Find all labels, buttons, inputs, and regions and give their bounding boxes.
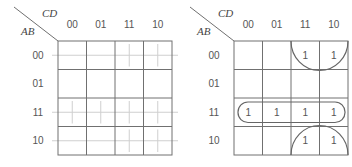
row-label: 11 — [209, 107, 220, 118]
col-label: 00 — [67, 19, 79, 30]
row-variable-label: AB — [20, 25, 35, 37]
cell-value: 1 — [331, 135, 337, 146]
cell-value: 1 — [302, 107, 308, 118]
col-variable-label: CD — [42, 7, 57, 19]
row-label: 00 — [208, 50, 220, 61]
cell-value: 1 — [245, 107, 251, 118]
row-label: 10 — [208, 135, 220, 146]
cell-value: 1 — [331, 107, 337, 118]
col-label: 00 — [243, 19, 255, 30]
karnaugh-maps-diagram: CDAB0001111000011110CDAB0001111000011110… — [0, 0, 352, 167]
cell-value: 1 — [331, 50, 337, 61]
col-label: 10 — [152, 19, 164, 30]
col-variable-label: CD — [218, 7, 233, 19]
row-label: 11 — [33, 107, 44, 118]
cell-value: 1 — [302, 135, 308, 146]
kmap-right: CDAB000111100001111011111111 — [190, 7, 348, 155]
row-label: 10 — [32, 135, 44, 146]
kmap-left: CDAB0001111000011110 — [14, 7, 178, 155]
col-label: 11 — [124, 19, 135, 30]
row-label: 00 — [32, 50, 44, 61]
col-label: 11 — [300, 19, 311, 30]
col-label: 01 — [271, 19, 283, 30]
col-label: 10 — [328, 19, 340, 30]
row-variable-label: AB — [196, 25, 211, 37]
cell-value: 1 — [274, 107, 280, 118]
col-label: 01 — [95, 19, 107, 30]
cell-value: 1 — [302, 50, 308, 61]
row-label: 01 — [208, 78, 220, 89]
row-label: 01 — [32, 78, 44, 89]
